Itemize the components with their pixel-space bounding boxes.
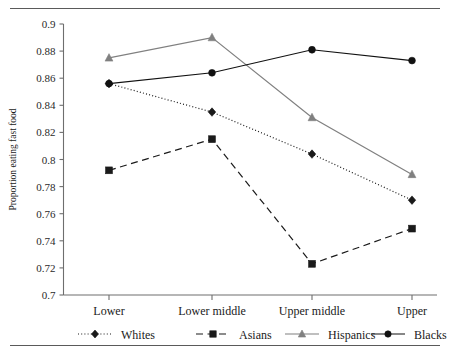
legend-label-blacks: Blacks [414,328,447,342]
x-tick-label-lower: Lower [93,304,124,318]
series-blacks [106,46,416,87]
data-point-marker [209,136,216,143]
data-point-marker [309,46,316,53]
data-point-marker [106,167,113,174]
y-tick-label: 0.78 [36,181,56,193]
y-tick-label: 0.9 [42,18,56,30]
y-axis-title: Proportion eating fast food [8,108,18,210]
data-point-marker [408,170,416,177]
y-tick-label: 0.84 [36,99,56,111]
y-tick-label: 0.72 [36,262,55,274]
data-point-marker [409,225,416,232]
figure-page: 0.70.720.740.760.780.80.820.840.860.880.… [0,0,451,354]
legend-item-asians[interactable]: Asians [196,328,272,342]
legend-label-hispanics: Hispanics [328,328,376,342]
data-point-marker [91,330,98,338]
data-point-marker [308,113,316,120]
series-hispanics [105,33,416,177]
series-line-hispanics [109,38,412,175]
data-point-marker [209,69,216,76]
legend-item-whites[interactable]: Whites [78,328,155,342]
series-whites [105,79,415,204]
x-tick-label-upper: Upper [397,304,427,318]
legend-item-blacks[interactable]: Blacks [371,328,447,342]
x-tick-label-lower-middle: Lower middle [178,304,246,318]
y-tick-label: 0.86 [36,72,56,84]
y-tick-label: 0.82 [36,126,55,138]
legend-label-whites: Whites [121,328,155,342]
data-point-marker [309,260,316,267]
series-line-whites [109,84,412,201]
legend-item-hispanics[interactable]: Hispanics [285,328,376,342]
data-point-marker [385,331,391,337]
data-point-marker [408,196,415,205]
line-chart: 0.70.720.740.760.780.80.820.840.860.880.… [0,0,451,354]
data-point-marker [208,33,216,40]
y-tick-label: 0.74 [36,235,56,247]
y-tick-label: 0.88 [36,45,56,57]
data-point-marker [208,108,215,117]
series-asians [106,136,416,267]
series-line-asians [109,139,412,264]
y-tick-label: 0.76 [36,208,56,220]
y-tick-label: 0.8 [42,154,56,166]
data-point-marker [210,331,216,337]
x-tick-label-upper-middle: Upper middle [279,304,345,318]
data-point-marker [308,150,315,159]
data-point-marker [409,57,416,64]
y-tick-label: 0.7 [42,289,56,301]
legend-label-asians: Asians [239,328,272,342]
data-point-marker [106,80,113,87]
series-line-blacks [109,50,412,84]
